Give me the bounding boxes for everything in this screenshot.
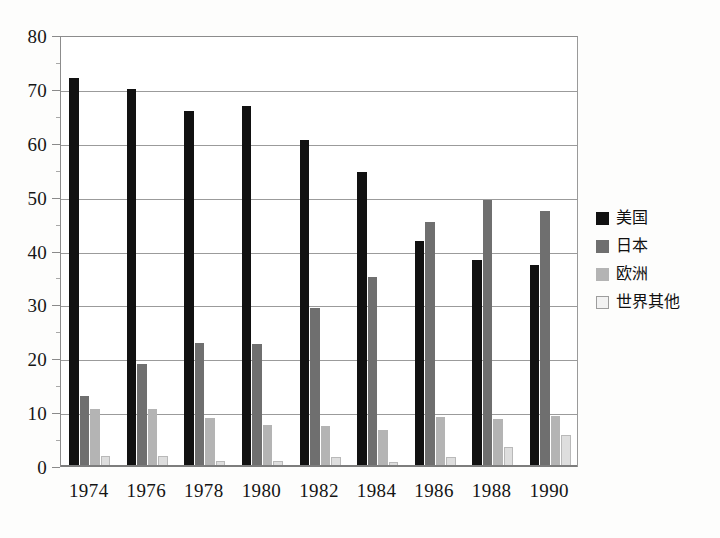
legend-item: 日本 [596,232,716,260]
bar [561,435,571,466]
legend-swatch-light-gray [596,268,609,281]
y-tick-major [52,144,60,145]
y-tick-label: 50 [27,189,47,208]
legend-item-label: 日本 [616,237,648,255]
x-tick-label: 1976 [127,480,167,502]
x-tick-label: 1988 [472,480,512,502]
chart-legend: 美国日本欧洲世界其他 [596,204,716,316]
legend-item-label: 欧洲 [616,265,648,283]
y-tick-major [52,198,60,199]
y-tick-label: 40 [27,243,47,262]
y-tick-label: 10 [27,404,47,423]
legend-item: 美国 [596,204,716,232]
y-tick-label: 60 [27,135,47,154]
bar [551,416,561,466]
y-tick-major [52,36,60,37]
bar [530,265,540,466]
y-axis-ticks [52,36,60,467]
legend-swatch-black [596,212,609,225]
plot-area [60,36,578,467]
bars-layer [61,37,577,466]
legend-swatch-dark-gray [596,240,609,253]
x-tick-label: 1980 [242,480,282,502]
x-tick-label: 1984 [357,480,397,502]
y-tick-label: 20 [27,350,47,369]
y-tick-label: 80 [27,27,47,46]
y-tick-major [52,413,60,414]
x-tick-label: 1982 [299,480,339,502]
x-tick-label: 1986 [414,480,454,502]
legend-item: 世界其他 [596,288,716,316]
y-tick-major [52,305,60,306]
y-tick-major [52,359,60,360]
bar [540,211,550,466]
y-tick-label: 70 [27,81,47,100]
x-tick-label: 1990 [529,480,569,502]
x-tick-label: 1978 [184,480,224,502]
legend-swatch-white [596,296,609,309]
baseline [61,465,577,467]
legend-item-label: 世界其他 [616,293,680,311]
y-tick-label: 0 [37,458,47,477]
y-tick-major [52,467,60,468]
legend-item: 欧洲 [596,260,716,288]
y-axis: 01020304050607080 [0,0,60,538]
y-tick-label: 30 [27,296,47,315]
chart-figure: 01020304050607080 1974197619781980198219… [0,0,720,538]
y-tick-major [52,252,60,253]
x-tick-label: 1974 [69,480,109,502]
bar-group [61,37,579,466]
y-tick-major [52,90,60,91]
x-axis: 197419761978198019821984198619881990 [60,480,578,514]
legend-item-label: 美国 [616,209,648,227]
